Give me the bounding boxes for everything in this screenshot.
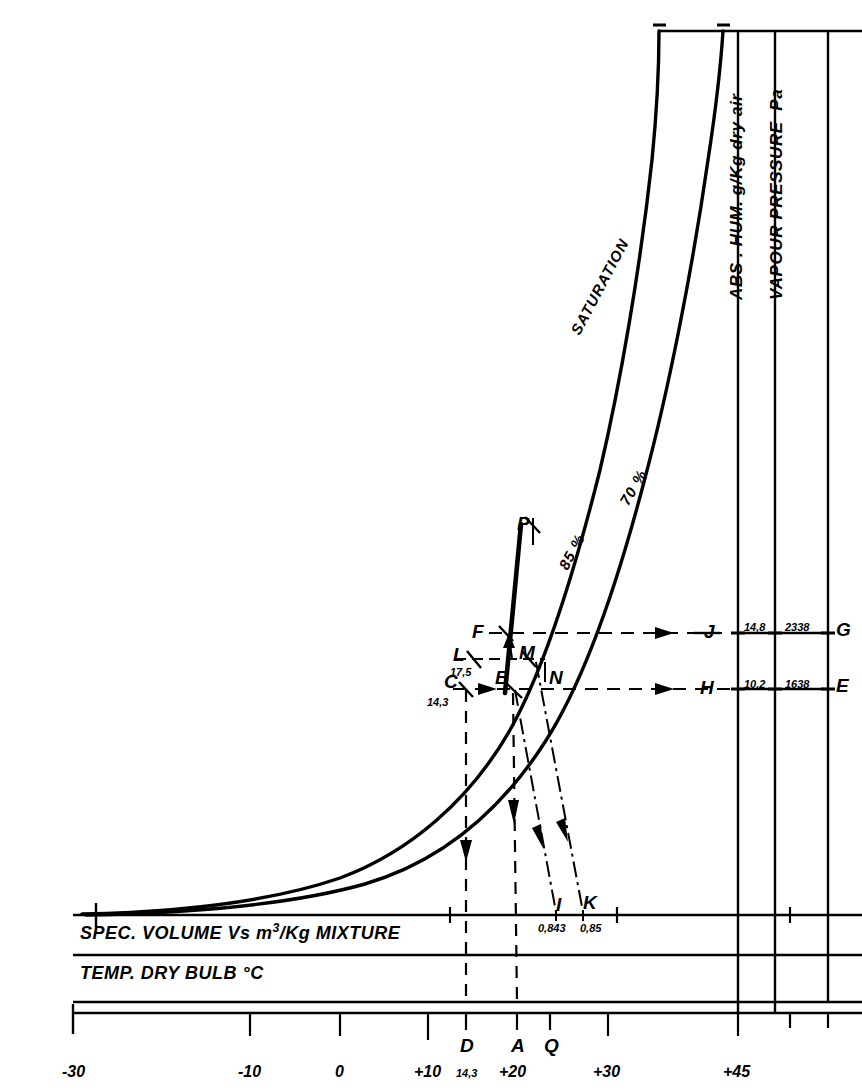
point-label-e: E [836,676,849,695]
point-label-k: K [583,893,597,912]
scale-label-d-value: 14,3 [456,1068,477,1079]
spec-volume-text: SPEC. VOLUME Vs m [80,923,273,943]
scale-label-zero: 0 [335,1064,344,1080]
axis-label-vapour-pressure: VAPOUR PRESSURE Pa [768,89,785,300]
point-label-b: B [495,668,509,687]
point-label-g: G [836,620,851,639]
point-label-l: L [453,645,465,664]
point-label-i: I [556,895,561,914]
scale-point-label-d: D [460,1036,474,1055]
arrowhead-d-down [460,840,472,862]
arrowhead-f-to-g [655,627,674,639]
value-label-j-abs-hum: 14,8 [744,622,765,633]
arrowhead-a-down [508,800,519,824]
vapour-pressure-unit: Pa [767,89,786,111]
scale-point-label-q: Q [544,1036,559,1055]
scale-label-minus10: -10 [238,1064,261,1080]
scale-label-plus30: +30 [593,1064,620,1080]
axis-label-abs-hum: ABS . HUM. g/Kg dry air [728,94,745,301]
axis-label-spec-volume: SPEC. VOLUME Vs m3/Kg MIXTURE [80,922,400,942]
value-label-h-pressure: 1638 [785,679,809,690]
abs-hum-unit: Kg dry air [727,94,746,179]
spec-volume-exponent: 3 [273,921,280,935]
arrowhead-to-i [532,824,543,848]
dash-dot-line-to-i [515,690,556,912]
value-label-c: 14,3 [427,697,448,708]
spec-volume-tail: /Kg MIXTURE [280,923,401,943]
point-label-f: F [472,622,484,641]
value-label-i: 0,843 [538,923,566,934]
point-label-m: M [519,643,535,662]
value-label-j-pressure: 2338 [785,622,809,633]
axis-label-temp-dry-bulb: TEMP. DRY BULB °C [80,964,264,982]
point-label-j: J [704,622,715,641]
saturation-curve [82,31,659,914]
scale-point-label-a: A [511,1036,525,1055]
vapour-pressure-text: VAPOUR PRESSURE [767,121,786,300]
psychrometric-chart: ABS . HUM. g/Kg dry air VAPOUR PRESSURE … [0,0,862,1092]
scale-label-plus10: +10 [414,1064,441,1080]
arrowhead-h-right [655,683,674,695]
point-label-h: H [700,678,714,697]
scale-label-minus30: -30 [62,1064,85,1080]
value-label-k: 0,85 [580,923,601,934]
value-label-h-abs-hum: 10,2 [744,679,765,690]
rh-70-curve [86,31,723,915]
abs-hum-text: ABS . HUM. g [727,184,746,300]
point-label-c: C [444,672,458,691]
scale-label-plus20: +20 [499,1064,526,1080]
scale-label-plus45: +45 [723,1064,750,1080]
point-label-n: N [549,668,563,687]
arrowhead-to-k [556,818,568,842]
dash-dot-line-to-k [536,662,583,912]
point-label-p: P [517,514,530,533]
